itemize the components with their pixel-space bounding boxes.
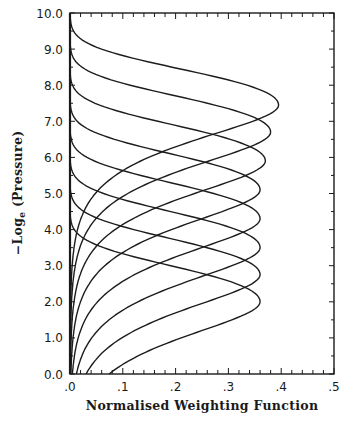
weighting-function-chart: .0.1.2.3.4.50.01.02.03.04.05.06.07.08.09… bbox=[0, 0, 355, 421]
y-tick-label: 6.0 bbox=[44, 151, 63, 165]
x-tick-label: .2 bbox=[170, 380, 181, 394]
y-axis-title: −Loge (Pressure) bbox=[10, 131, 27, 256]
y-tick-label: 7.0 bbox=[44, 115, 63, 129]
weighting-curve-channel-6 bbox=[70, 13, 265, 374]
y-tick-label: 1.0 bbox=[44, 331, 63, 345]
y-tick-label: 4.0 bbox=[44, 223, 63, 237]
y-tick-label: 3.0 bbox=[44, 259, 63, 273]
x-tick-label: .3 bbox=[223, 380, 234, 394]
y-axis-title-main: −Log bbox=[10, 218, 25, 256]
x-tick-label: .5 bbox=[328, 380, 339, 394]
x-tick-label: .0 bbox=[64, 380, 75, 394]
y-tick-label: 2.0 bbox=[44, 295, 63, 309]
x-axis-title: Normalised Weighting Function bbox=[86, 398, 319, 413]
y-tick-label: 8.0 bbox=[44, 79, 63, 93]
weighting-curve-channel-8 bbox=[70, 13, 279, 374]
x-tick-label: .4 bbox=[275, 380, 286, 394]
weighting-curve-channel-1 bbox=[70, 13, 260, 374]
y-axis-title-rest: (Pressure) bbox=[10, 131, 25, 212]
svg-text:−Loge (Pressure): −Loge (Pressure) bbox=[10, 131, 27, 256]
y-tick-label: 5.0 bbox=[44, 187, 63, 201]
y-tick-label: 0.0 bbox=[44, 368, 63, 382]
x-tick-label: .1 bbox=[117, 380, 128, 394]
weighting-curves bbox=[70, 13, 279, 374]
y-tick-label: 9.0 bbox=[44, 43, 63, 57]
y-tick-label: 10.0 bbox=[36, 7, 63, 21]
